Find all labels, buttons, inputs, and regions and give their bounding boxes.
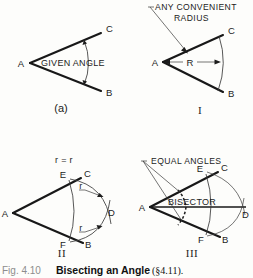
panel-II-radius-label-upper: r <box>79 181 82 191</box>
panel-III-label-f: F <box>198 234 204 245</box>
panel-II-construction-arc <box>69 180 74 241</box>
panel-II-label-b: B <box>85 239 91 250</box>
panel-II-label-d: D <box>108 207 115 218</box>
panel-III-annotation: EQUAL ANGLES <box>151 156 221 166</box>
panel-II-arc-from-f <box>70 200 110 242</box>
panel-II-radius-label-lower: r <box>79 223 82 233</box>
panel-I-label-b: B <box>228 88 234 99</box>
panel-II-label-c: C <box>84 168 91 179</box>
panel-III-label-a: A <box>139 202 146 213</box>
panel-III-label-c: C <box>221 162 228 173</box>
panel-I-radius-arrowhead-right <box>215 60 222 65</box>
caption-figure-number: Fig. 4.10 <box>2 265 41 276</box>
panel-I-radius-label: R <box>187 57 194 68</box>
panel-I-label-c: C <box>228 25 235 36</box>
panel-a-caption: (a) <box>54 102 67 114</box>
caption-section-ref: (§4.11). <box>152 265 183 277</box>
panel-III-arc-from-e <box>207 172 245 215</box>
figure-bisecting-an-angle: A C B GIVEN ANGLE (a) A C B R ANY CONVEN… <box>0 0 253 278</box>
panel-a-label-b: B <box>106 87 112 98</box>
panel-II-ray-ac <box>13 178 81 213</box>
panel-a-annotation: GIVEN ANGLE <box>41 58 105 68</box>
panel-II-label-a: A <box>2 208 9 219</box>
panel-II <box>13 178 111 243</box>
caption-title: Bisecting an Angle <box>56 264 150 276</box>
panel-I-label-a: A <box>152 57 159 68</box>
panel-a-label-c: C <box>106 23 113 34</box>
panel-I-annotation-line1: ANY CONVENIENT <box>155 2 237 12</box>
panel-III-label-b: B <box>222 234 228 245</box>
panel-a-label-a: A <box>18 58 25 69</box>
panel-I-construction-arc <box>218 36 223 91</box>
figure-canvas: A C B GIVEN ANGLE (a) A C B R ANY CONVEN… <box>0 0 253 278</box>
panel-III-caption: III <box>186 247 199 259</box>
panel-III-bisector-label: BISECTOR <box>168 197 216 207</box>
panel-II-caption: II <box>58 247 66 259</box>
panel-III-label-d: D <box>242 209 249 220</box>
panel-II-label-e: E <box>60 169 66 180</box>
panel-II-equality-note: r = r <box>55 155 73 165</box>
panel-I-caption: I <box>198 104 202 116</box>
panel-I-annotation-line2: RADIUS <box>174 13 209 23</box>
